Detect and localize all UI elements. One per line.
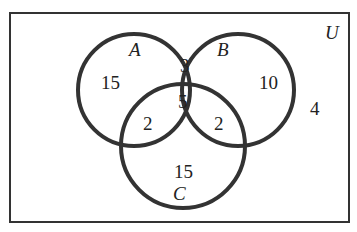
region-a-and-b: 3: [180, 55, 190, 76]
region-a-b-c: 5: [178, 91, 188, 112]
set-c-label: C: [173, 183, 186, 204]
region-c-only: 15: [174, 161, 193, 182]
set-a-label: A: [127, 39, 141, 60]
region-a-only: 15: [101, 72, 120, 93]
universe-label: U: [325, 22, 340, 43]
venn-diagram: U A B C 15 10 15 3 2 2 5 4: [0, 0, 357, 232]
region-a-and-c: 2: [143, 113, 153, 134]
region-b-and-c: 2: [214, 113, 224, 134]
set-b-label: B: [217, 39, 229, 60]
region-b-only: 10: [259, 72, 278, 93]
region-outside: 4: [310, 98, 320, 119]
